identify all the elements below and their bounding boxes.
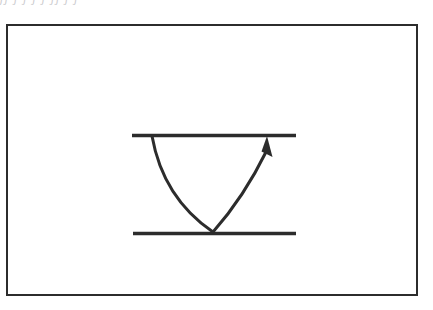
cut-off-caption-text: ʃʃ ʃ ʃ ʃ ʃ ʃʃ ʃ ʃ — [0, 0, 433, 5]
figure-border-frame — [6, 24, 418, 296]
scanned-figure-page: ʃʃ ʃ ʃ ʃ ʃ ʃʃ ʃ ʃ — [0, 0, 433, 310]
